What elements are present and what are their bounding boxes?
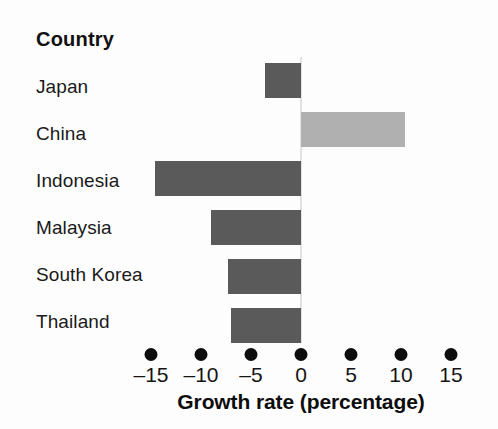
x-tick-dot-neg5 <box>245 348 258 361</box>
x-tick-label-neg10: –10 <box>183 363 218 387</box>
x-tick-dot-neg10 <box>195 348 208 361</box>
x-tick-label-10: 10 <box>389 363 412 387</box>
chart-page: Country JapanChinaIndonesiaMalaysiaSouth… <box>0 0 498 429</box>
x-tick-dot-10 <box>395 348 408 361</box>
bar-malaysia <box>211 210 301 245</box>
bar-indonesia <box>155 161 301 196</box>
x-tick-label-neg15: –15 <box>133 363 168 387</box>
x-axis: Growth rate (percentage) –15–10–5051015 <box>0 340 498 429</box>
x-tick-label-5: 5 <box>345 363 357 387</box>
plot-area <box>0 0 498 345</box>
bar-south-korea <box>228 259 301 294</box>
zero-baseline <box>300 57 302 343</box>
x-tick-dot-neg15 <box>145 348 158 361</box>
x-tick-dot-15 <box>445 348 458 361</box>
x-tick-label-15: 15 <box>439 363 462 387</box>
x-tick-label-neg5: –5 <box>239 363 262 387</box>
x-tick-dot-5 <box>345 348 358 361</box>
x-axis-title: Growth rate (percentage) <box>177 390 424 414</box>
bar-china <box>301 112 405 147</box>
x-tick-label-0: 0 <box>295 363 307 387</box>
bar-thailand <box>231 308 301 343</box>
x-tick-dot-0 <box>295 348 308 361</box>
bar-japan <box>265 63 301 98</box>
